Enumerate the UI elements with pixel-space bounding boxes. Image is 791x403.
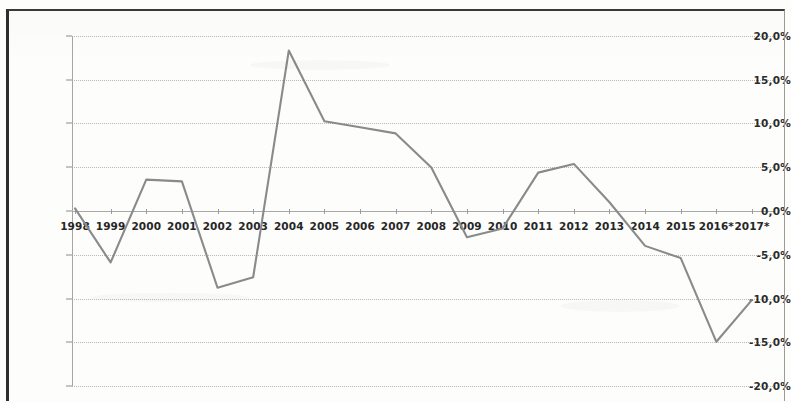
line-chart: 20,0% 15,0% 10,0% 5,0% 0,0% -5,0% -10,0%… [0, 0, 791, 403]
series-plot-area [0, 0, 791, 403]
scanned-chart-page: 20,0% 15,0% 10,0% 5,0% 0,0% -5,0% -10,0%… [0, 0, 791, 403]
series-line [75, 51, 752, 342]
